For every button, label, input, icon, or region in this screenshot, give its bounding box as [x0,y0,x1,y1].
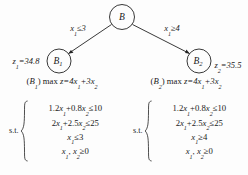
node-root-label: B [119,12,125,22]
edge-label-b2: x1≥4 [164,23,180,35]
edge-label-b1: x1≤3 [70,23,86,35]
subproblem-b1-objective: (B1) max z=4x1+3x2 [0,76,124,88]
constraint-row: 1.2x1+0.8x2≤10 [29,104,122,115]
bound-value-b2: z2=35.5 [215,60,242,72]
node-b1-label: B1 [53,56,62,66]
subproblem-b2: (B2) max z=4x1+3x2 s.t. 1.2x1+0.8x2≤10 2… [124,74,248,175]
constraint-row: x1, x2≥0 [153,147,246,158]
subproblem-b1: (B1) max z=4x1+3x2 s.t. 1.2x1+0.8x2≤10 2… [0,74,124,175]
subproblem-b1-constraints: 1.2x1+0.8x2≤10 2x1+2.5x2≤25 x1≤3 x1, x2≥… [29,104,124,157]
subproblem-b2-st-label: s.t. [124,127,143,135]
subproblem-b1-st-label: s.t. [0,127,19,135]
bound-value-b1: z1=34.8 [13,56,40,68]
constraint-row: x1≥4 [153,133,246,144]
subproblem-b1-system: s.t. 1.2x1+0.8x2≤10 2x1+2.5x2≤25 x1≤3 [0,93,124,169]
constraint-row: 2x1+2.5x2≤25 [153,119,246,130]
edge-root-to-b2 [133,25,190,54]
subproblem-b2-objective: (B2) max z=4x1+3x2 [124,76,248,88]
constraint-row: x1≤3 [29,133,122,144]
branch-and-bound-figure: B B1 B2 x1≤3 x1≥4 z1=34.8 z2=35.5 (B1) m… [0,0,248,175]
constraint-row: 1.2x1+0.8x2≤10 [153,104,246,115]
constraint-row: x1, x2≥0 [29,147,122,158]
subproblem-blocks: (B1) max z=4x1+3x2 s.t. 1.2x1+0.8x2≤10 2… [0,74,248,175]
subproblem-b2-system: s.t. 1.2x1+0.8x2≤10 2x1+2.5x2≤25 x1≥4 [124,93,248,169]
subproblem-b2-brace [144,100,153,162]
constraint-row: 2x1+2.5x2≤25 [29,119,122,130]
subproblem-b1-brace [20,100,29,162]
node-b2-label: B2 [193,56,202,66]
subproblem-b2-constraints: 1.2x1+0.8x2≤10 2x1+2.5x2≤25 x1≥4 x1, x2≥… [153,104,248,157]
tree-diagram: B B1 B2 x1≤3 x1≥4 z1=34.8 z2=35.5 [0,0,248,78]
